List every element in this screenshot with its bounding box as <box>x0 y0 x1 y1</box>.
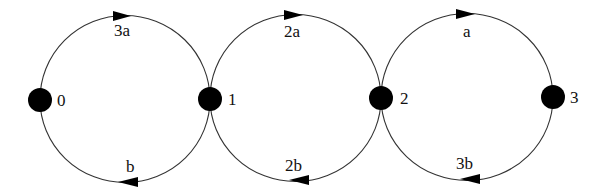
state-node-0 <box>28 88 52 112</box>
arrow-left-icon <box>118 177 138 187</box>
node-label-2: 2 <box>400 89 409 108</box>
arrow-right-icon <box>113 11 131 21</box>
edge-label-a: a <box>463 22 471 41</box>
node-0: 0 <box>28 88 66 112</box>
node-label-0: 0 <box>57 91 66 110</box>
edge-label-3b: 3b <box>456 154 473 173</box>
state-node-3 <box>541 85 565 109</box>
node-3: 3 <box>541 85 579 109</box>
arrow-left-icon <box>289 175 309 185</box>
arrow-left-icon <box>460 174 480 184</box>
edge-label-2a: 2a <box>284 22 301 41</box>
edge-label-2b: 2b <box>285 156 302 175</box>
edge-label-b: b <box>126 157 135 176</box>
arrow-right-icon <box>456 9 475 19</box>
state-node-1 <box>198 87 222 111</box>
node-1: 1 <box>198 87 237 111</box>
edge-1-to-0-arc <box>40 99 210 182</box>
node-2: 2 <box>369 86 409 110</box>
state-diagram: 3a b 2a 2b a 3b 0 1 2 3 <box>0 0 613 191</box>
node-label-3: 3 <box>570 88 579 107</box>
edge-label-3a: 3a <box>114 21 131 40</box>
arrow-right-icon <box>284 10 303 20</box>
node-label-1: 1 <box>228 90 237 109</box>
state-node-2 <box>369 86 393 110</box>
